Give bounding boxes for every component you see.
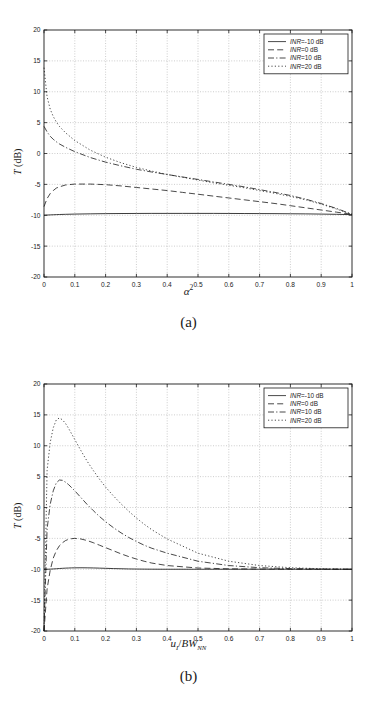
legend-label: INR=-10 dB: [290, 392, 324, 399]
y-axis-label-a: T (dB): [12, 149, 23, 175]
y-tick-label: 10: [33, 88, 41, 95]
y-tick-label: 5: [37, 473, 41, 480]
y-tick-label: -5: [35, 181, 41, 188]
chart-svg-a: 00.10.20.30.40.50.60.70.80.9120151050-5-…: [0, 0, 377, 300]
legend-label: INR=20 dB: [290, 417, 321, 424]
y-tick-label: 20: [33, 26, 41, 33]
legend-label: INR=10 dB: [290, 54, 321, 61]
y-tick-label: 20: [33, 380, 41, 387]
legend: INR=-10 dBINR=0 dBINR=10 dBINR=20 dB: [264, 34, 348, 74]
legend-label: INR=10 dB: [290, 408, 321, 415]
legend-label: INR=20 dB: [290, 63, 321, 70]
legend-label: INR=-10 dB: [290, 38, 324, 45]
y-axis-label-b: T (dB): [12, 503, 23, 529]
panel-caption-b: (b): [0, 668, 377, 685]
chart-svg-b: 00.10.20.30.40.50.60.70.80.9120151050-5-…: [0, 354, 377, 654]
x-axis-label-a: α2: [0, 283, 377, 297]
y-tick-label: -15: [31, 243, 41, 250]
legend-label: INR=0 dB: [290, 46, 318, 53]
panel-b: 00.10.20.30.40.50.60.70.80.9120151050-5-…: [0, 354, 377, 708]
y-tick-label: -5: [35, 535, 41, 542]
panel-caption-a: (a): [0, 314, 377, 331]
x-axis-label-b: uI/BWNN: [0, 637, 377, 651]
plot-area-a: 00.10.20.30.40.50.60.70.80.9120151050-5-…: [0, 0, 377, 300]
legend-label: INR=0 dB: [290, 400, 318, 407]
y-tick-label: 5: [37, 119, 41, 126]
legend: INR=-10 dBINR=0 dBINR=10 dBINR=20 dB: [264, 388, 348, 428]
y-tick-label: 15: [33, 57, 41, 64]
figure-container: 00.10.20.30.40.50.60.70.80.9120151050-5-…: [0, 0, 377, 708]
y-tick-label: -10: [31, 212, 41, 219]
y-tick-label: -15: [31, 597, 41, 604]
y-tick-label: -10: [31, 566, 41, 573]
y-tick-label: -20: [31, 273, 41, 280]
y-tick-label: 10: [33, 442, 41, 449]
plot-area-b: 00.10.20.30.40.50.60.70.80.9120151050-5-…: [0, 354, 377, 654]
y-tick-label: 15: [33, 411, 41, 418]
y-tick-label: -20: [31, 627, 41, 634]
y-tick-label: 0: [37, 150, 41, 157]
panel-a: 00.10.20.30.40.50.60.70.80.9120151050-5-…: [0, 0, 377, 354]
y-tick-label: 0: [37, 504, 41, 511]
